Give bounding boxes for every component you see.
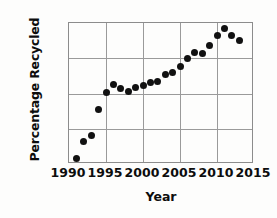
data-point <box>236 37 243 44</box>
data-point <box>191 49 198 56</box>
gridline-horizontal <box>69 129 252 130</box>
data-point <box>117 85 124 92</box>
data-point <box>177 63 184 70</box>
plot-area <box>68 22 253 163</box>
data-point <box>228 32 235 39</box>
gridline-horizontal <box>69 94 252 95</box>
data-point <box>132 84 139 91</box>
data-point <box>73 155 80 162</box>
data-point <box>184 55 191 62</box>
recycling-scatter-chart: Percentage Recycled Year 15%18%21%24%27%… <box>0 0 277 218</box>
data-point <box>221 25 228 32</box>
gridline-vertical <box>217 23 218 162</box>
gridline-vertical <box>180 23 181 162</box>
data-point <box>147 79 154 86</box>
data-point <box>199 50 206 57</box>
data-point <box>88 132 95 139</box>
gridline-horizontal <box>69 58 252 59</box>
data-point <box>110 81 117 88</box>
data-point <box>103 89 110 96</box>
data-point <box>154 78 161 85</box>
x-axis-tick-label: 2015 <box>223 167 277 180</box>
gridline-vertical <box>143 23 144 162</box>
data-point <box>162 71 169 78</box>
data-point <box>206 42 213 49</box>
data-point <box>95 106 102 113</box>
y-axis-title: Percentage Recycled <box>27 10 42 170</box>
data-point <box>214 32 221 39</box>
data-point <box>80 138 87 145</box>
data-point <box>125 88 132 95</box>
x-axis-title: Year <box>68 189 254 204</box>
data-point <box>140 82 147 89</box>
data-point <box>169 69 176 76</box>
